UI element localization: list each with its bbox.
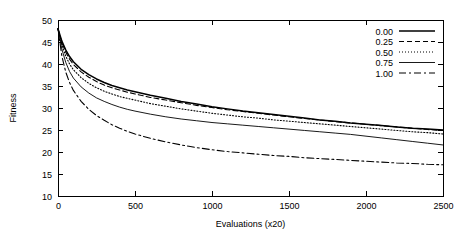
y-tick-label: 30 [42, 104, 52, 114]
y-tick-label: 35 [42, 82, 52, 92]
x-axis-label: Evaluations (x20) [216, 219, 286, 229]
chart-background [0, 0, 470, 242]
y-tick-label: 10 [42, 192, 52, 202]
legend-label-1-00: 1.00 [375, 69, 393, 79]
chart-canvas: 101520253035404550 05001000150020002500 … [0, 0, 470, 242]
y-tick-label: 25 [42, 126, 52, 136]
legend-label-0-75: 0.75 [375, 58, 393, 68]
x-tick-label: 500 [128, 201, 143, 211]
y-tick-label: 50 [42, 16, 52, 26]
x-tick-label: 2000 [356, 201, 376, 211]
legend-label-0-50: 0.50 [375, 48, 393, 58]
y-tick-label: 15 [42, 170, 52, 180]
x-tick-label: 2500 [433, 201, 453, 211]
legend-label-0-25: 0.25 [375, 37, 393, 47]
x-tick-label: 0 [56, 201, 61, 211]
y-tick-label: 40 [42, 60, 52, 70]
fitness-line-chart: 101520253035404550 05001000150020002500 … [0, 0, 470, 242]
y-axis-label: Fitness [8, 93, 18, 123]
y-tick-label: 20 [42, 148, 52, 158]
x-tick-label: 1000 [202, 201, 222, 211]
y-tick-label: 45 [42, 38, 52, 48]
x-tick-label: 1500 [279, 201, 299, 211]
legend-label-0-00: 0.00 [375, 27, 393, 37]
